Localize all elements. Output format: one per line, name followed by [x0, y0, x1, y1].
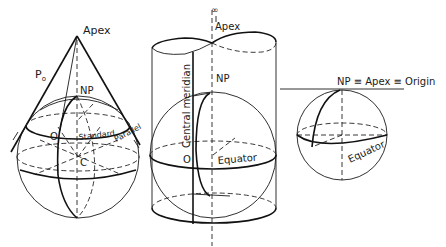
- cylinder-np-label: NP: [216, 73, 230, 84]
- cylinder-bottom-link: [193, 194, 230, 196]
- conic-equator-back: [17, 143, 139, 157]
- cylinder-radius: [213, 138, 235, 155]
- conic-tick-left: [13, 132, 18, 140]
- cone-left-side: [11, 36, 77, 152]
- conic-equator-mid: [17, 157, 139, 171]
- conic-np-label: NP: [80, 85, 94, 96]
- conic-origin-label: O: [50, 131, 58, 142]
- cylinder-equator-label: Equator: [217, 152, 258, 166]
- map-projection-diagram: Apex Po NP O Standard Parallel C: [0, 0, 446, 247]
- conic-figure: Apex Po NP O Standard Parallel C: [11, 24, 143, 218]
- cylinder-top-front: [152, 32, 276, 48]
- standard-label: Standard: [78, 129, 115, 142]
- conic-meridian: [58, 96, 77, 218]
- cylinder-origin-label: O: [183, 154, 191, 165]
- conic-apex-label: Apex: [83, 24, 111, 37]
- cylinder-apex-label: Apex: [215, 21, 240, 32]
- azimuthal-radius: [312, 135, 342, 147]
- standard-parallel-back: [26, 113, 130, 126]
- cylindrical-figure: ∞ Apex NP Central meridian O Equator: [150, 5, 276, 246]
- cylinder-meridian: [196, 93, 210, 196]
- infinity-label: ∞: [211, 5, 219, 15]
- conic-top-dash: [78, 104, 93, 120]
- cylinder-equator-back: [150, 141, 276, 155]
- conic-radius-to-o: [58, 127, 78, 157]
- cylinder-top-back: [212, 42, 276, 52]
- center-label: C: [80, 157, 87, 168]
- p0-label: Po: [35, 68, 46, 83]
- cylinder-top-left-under: [152, 43, 212, 54]
- azimuthal-figure: NP ≡ Apex ≡ Origin Equator: [280, 76, 435, 180]
- central-meridian-label: Central meridian: [181, 64, 192, 148]
- np-apex-origin-label: NP ≡ Apex ≡ Origin: [337, 76, 435, 87]
- cylinder-bottom-front: [152, 208, 276, 223]
